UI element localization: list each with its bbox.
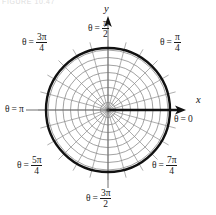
equals-sign: = [10, 105, 19, 115]
label-theta-pi-over-2: θ= π 2 [88, 18, 109, 40]
fraction-denominator: 4 [31, 166, 43, 177]
fraction-numerator: 5π [31, 155, 43, 166]
label-theta-three-pi-over-4: θ= 3π 4 [22, 32, 47, 54]
fraction-pi-over-4: π 4 [174, 32, 181, 54]
x-axis-letter: x [196, 94, 201, 105]
angular-gridline [47, 75, 108, 110]
equals-sign: = [91, 194, 100, 204]
label-theta-three-pi-over-2: θ= 3π 2 [86, 188, 111, 210]
fraction-numerator: 3π [100, 188, 112, 199]
fraction-denominator: 4 [36, 43, 48, 54]
angular-gridline [59, 61, 109, 111]
angular-gridline [108, 75, 169, 110]
fraction-denominator: 2 [100, 199, 112, 210]
label-theta-five-pi-over-4: θ= 5π 4 [17, 155, 42, 177]
angular-gridline [47, 110, 108, 145]
equals-sign: = [179, 115, 188, 125]
fraction-numerator: 3π [36, 32, 48, 43]
origin-point [106, 108, 109, 111]
fraction-denominator: 2 [102, 29, 109, 40]
polar-coordinate-figure: FIGURE 10.47 θ= π 2 y θ= π 4 [0, 0, 216, 215]
fraction-numerator: π [174, 32, 181, 43]
fraction-pi-over-2: π 2 [102, 18, 109, 40]
equals-sign: = [165, 38, 174, 48]
fraction-denominator: 4 [174, 43, 181, 54]
angular-gridline [108, 61, 158, 111]
angular-gridline [108, 110, 143, 171]
zero-value: 0 [188, 115, 193, 125]
angular-gridline [73, 49, 108, 110]
label-theta-pi-over-4: θ= π 4 [160, 32, 181, 54]
angular-gridline [108, 110, 169, 145]
label-theta-pi: θ=π [5, 105, 24, 115]
equals-sign: = [157, 161, 166, 171]
fraction-numerator: π [102, 18, 109, 29]
angular-gridline [73, 110, 108, 171]
label-theta-zero: θ=0 [174, 115, 193, 125]
pi-symbol: π [19, 105, 24, 115]
equals-sign: = [93, 24, 102, 34]
fraction-three-pi-over-2: 3π 2 [100, 188, 112, 210]
fraction-denominator: 4 [166, 166, 178, 177]
fraction-numerator: 7π [166, 155, 178, 166]
angular-gridline [108, 49, 143, 110]
equals-sign: = [22, 161, 31, 171]
angular-gridline [59, 110, 109, 160]
fraction-seven-pi-over-4: 7π 4 [166, 155, 178, 177]
fraction-three-pi-over-4: 3π 4 [36, 32, 48, 54]
angular-gridline [108, 110, 158, 160]
fraction-five-pi-over-4: 5π 4 [31, 155, 43, 177]
equals-sign: = [27, 38, 36, 48]
label-theta-seven-pi-over-4: θ= 7π 4 [152, 155, 177, 177]
y-axis-letter: y [104, 3, 109, 14]
